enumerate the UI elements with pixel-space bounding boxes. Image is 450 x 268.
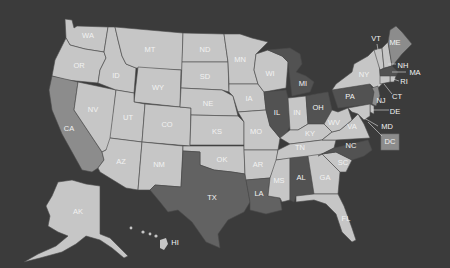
us-choropleth-map: WA OR CA NV ID MT WY UT CO AZ NM ND SD N…: [0, 0, 450, 268]
label-in: IN: [293, 108, 301, 117]
label-ma: MA: [409, 68, 420, 77]
state-de[interactable]: [370, 104, 374, 114]
label-nm: NM: [153, 160, 165, 169]
label-ms: MS: [273, 176, 284, 185]
label-ut: UT: [123, 113, 133, 122]
label-ky: KY: [305, 129, 315, 138]
label-ok: OK: [217, 155, 228, 164]
label-ar: AR: [253, 160, 264, 169]
label-de: DE: [390, 107, 400, 116]
label-nv: NV: [88, 105, 98, 114]
label-sc: SC: [338, 158, 349, 167]
label-md: MD: [381, 122, 393, 131]
label-mi: MI: [299, 79, 307, 88]
label-pa: PA: [345, 92, 354, 101]
label-nc: NC: [346, 141, 357, 150]
label-va: VA: [347, 122, 356, 131]
label-il: IL: [274, 108, 280, 117]
label-me: ME: [389, 38, 400, 47]
label-ne: NE: [203, 99, 213, 108]
label-wv: WV: [328, 118, 340, 127]
label-co: CO: [161, 120, 172, 129]
label-ny: NY: [359, 70, 369, 79]
label-ks: KS: [212, 127, 222, 136]
label-wi: WI: [265, 69, 274, 78]
label-fl: FL: [342, 214, 351, 223]
label-hi: HI: [171, 238, 179, 247]
label-ca: CA: [64, 124, 74, 133]
label-mt: MT: [145, 45, 156, 54]
label-ga: GA: [320, 173, 331, 182]
label-az: AZ: [116, 157, 126, 166]
label-tn: TN: [295, 143, 305, 152]
label-wa: WA: [82, 31, 94, 40]
label-ia: IA: [245, 94, 252, 103]
label-ak: AK: [73, 207, 83, 216]
label-mo: MO: [250, 127, 262, 136]
label-nh: NH: [398, 61, 409, 70]
label-mn: MN: [234, 55, 246, 64]
label-dc: DC: [385, 137, 396, 146]
label-or: OR: [73, 61, 85, 70]
label-nj: NJ: [376, 96, 385, 105]
label-ct: CT: [392, 92, 402, 101]
label-tx: TX: [207, 193, 217, 202]
label-oh: OH: [312, 103, 323, 112]
label-id: ID: [112, 71, 120, 80]
label-la: LA: [254, 189, 263, 198]
label-al: AL: [296, 173, 305, 182]
label-nd: ND: [200, 45, 211, 54]
label-vt: VT: [371, 34, 381, 43]
label-sd: SD: [200, 72, 211, 81]
label-ri: RI: [400, 77, 408, 86]
label-wy: WY: [152, 83, 164, 92]
